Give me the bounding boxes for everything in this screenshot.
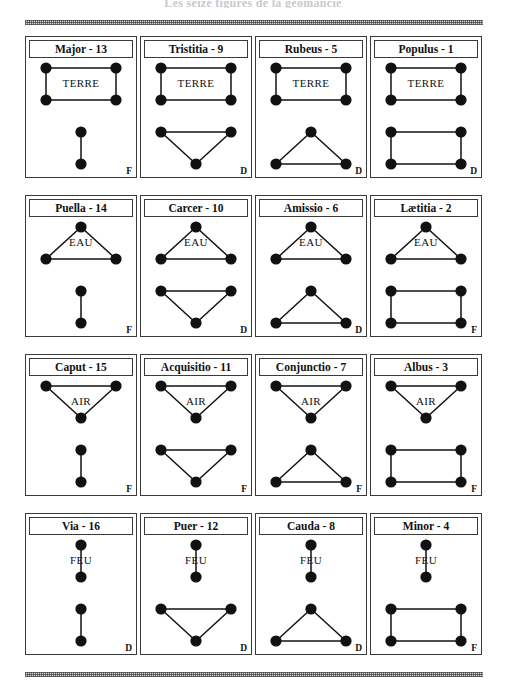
figure-dot [455,158,466,169]
figure-dot [75,476,86,487]
figure-dot [225,380,236,391]
figure-card-title: Carcer - 10 [144,199,248,217]
figure-dot [225,285,236,296]
figure-dot-pattern [259,58,363,174]
figure-card-title: Acquisitio - 11 [144,358,248,376]
figure-dot [75,285,86,296]
figure-dot [225,62,236,73]
figure-card-via[interactable]: Via - 16FEUD [25,513,137,655]
stability-letter: F [241,485,247,495]
figure-card-conjunctio[interactable]: Conjunctio - 7AIRF [255,354,367,496]
figure-dot [225,253,236,264]
figure-dot [110,62,121,73]
figure-connector [276,132,311,164]
figure-card-title: Puer - 12 [144,517,248,535]
figure-card-title: Minor - 4 [374,517,478,535]
figure-card-rubeus[interactable]: Rubeus - 5TERRED [255,36,367,178]
figure-dot [385,285,396,296]
figure-card-tristitia[interactable]: Tristitia - 9TERRED [140,36,252,178]
figure-dot [340,317,351,328]
figure-dot [270,635,281,646]
figure-dot-pattern [144,217,248,333]
figure-connector [196,227,231,259]
figure-connector [311,450,346,482]
figure-dot [455,635,466,646]
figure-connector [81,227,116,259]
figure-dot-pattern [144,535,248,651]
figure-dot [40,94,51,105]
figure-connector [276,227,311,259]
figure-dot [385,158,396,169]
figure-card-acquisitio[interactable]: Acquisitio - 11AIRF [140,354,252,496]
figure-diagram: AIR [259,376,363,492]
figure-card-albus[interactable]: Albus - 3AIRF [370,354,482,496]
figure-dot [420,412,431,423]
figure-dot [305,603,316,614]
figure-dot [270,380,281,391]
figure-card-major[interactable]: Major - 13TERREF [25,36,137,178]
top-divider-rule [25,20,483,25]
figure-card-laetitia[interactable]: Lætitia - 2EAUF [370,195,482,337]
figure-diagram: EAU [374,217,478,333]
page-heading: Les seize figures de la géomancie [0,0,506,8]
figure-connector [161,386,196,418]
figure-card-amissio[interactable]: Amissio - 6EAUD [255,195,367,337]
stability-letter: F [126,326,132,336]
figure-dot [110,380,121,391]
figure-dot [190,476,201,487]
figure-dot [455,126,466,137]
figure-dot-pattern [259,376,363,492]
figure-dot [190,412,201,423]
figure-dot [455,253,466,264]
figure-dot [270,94,281,105]
figure-dot [75,444,86,455]
figure-connector [196,386,231,418]
figure-dot [340,62,351,73]
figure-connector [311,386,346,418]
figure-dot [75,221,86,232]
figure-card-carcer[interactable]: Carcer - 10EAUD [140,195,252,337]
figure-dot [340,158,351,169]
figure-dot [420,539,431,550]
figure-connector [391,386,426,418]
figure-dot [110,94,121,105]
figure-dot [385,126,396,137]
figure-connector [81,386,116,418]
figure-dot [40,380,51,391]
figure-connector [276,609,311,641]
stability-letter: F [471,326,477,336]
figure-diagram: EAU [29,217,133,333]
figure-card-populus[interactable]: Populus - 1TERRED [370,36,482,178]
figure-card-title: Caput - 15 [29,358,133,376]
figure-card-minor[interactable]: Minor - 4FEUF [370,513,482,655]
figure-dot-pattern [144,58,248,174]
figure-dot-pattern [259,535,363,651]
figure-connector [196,609,231,641]
figure-dot [155,603,166,614]
figure-card-puella[interactable]: Puella - 14EAUF [25,195,137,337]
figure-dot [270,253,281,264]
stability-letter: F [126,485,132,495]
figure-dot [420,221,431,232]
figure-dot-pattern [374,376,478,492]
figure-dot [155,62,166,73]
figure-dot [455,317,466,328]
figure-card-caput[interactable]: Caput - 15AIRF [25,354,137,496]
figure-diagram: TERRE [144,58,248,174]
figure-dot [155,380,166,391]
figure-dot [75,126,86,137]
figure-dot [155,126,166,137]
figure-connector [196,450,231,482]
figure-dot [305,571,316,582]
figure-dot [455,444,466,455]
figure-diagram: EAU [259,217,363,333]
figure-card-puer[interactable]: Puer - 12FEUD [140,513,252,655]
figure-dot [190,221,201,232]
figure-dot [455,94,466,105]
figure-dot [75,635,86,646]
figure-dot [385,62,396,73]
figure-dot [305,126,316,137]
figure-dot [190,635,201,646]
figure-card-cauda[interactable]: Cauda - 8FEUD [255,513,367,655]
figure-dot [385,253,396,264]
